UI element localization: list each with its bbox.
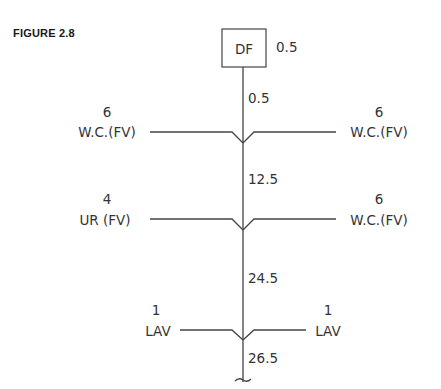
branch-1-right-count: 6 xyxy=(375,104,384,120)
branch-3-left-line xyxy=(180,330,243,340)
branch-2-left-name: UR (FV) xyxy=(79,212,130,228)
branch-3-left-count: 1 xyxy=(152,302,161,318)
branch-2-right-line xyxy=(243,219,336,230)
branch-3-right-line xyxy=(243,330,306,340)
branch-1-left-count: 6 xyxy=(103,104,112,120)
segment-label-3: 24.5 xyxy=(248,270,278,286)
df-fixture-label: DF xyxy=(235,41,253,57)
segment-label-1: 0.5 xyxy=(248,90,269,106)
drainage-riser-diagram: DF 0.5 0.5 12.5 24.5 26.5 6 W.C.(FV) 6 W… xyxy=(0,0,441,389)
branch-2-right-count: 6 xyxy=(375,191,384,207)
branch-2-right-name: W.C.(FV) xyxy=(350,212,407,228)
branch-2-left-count: 4 xyxy=(103,191,112,207)
branch-2-left-line xyxy=(150,219,243,230)
branch-1-left-line xyxy=(150,132,243,143)
branch-1-right-name: W.C.(FV) xyxy=(350,124,407,140)
segment-label-2: 12.5 xyxy=(248,171,278,187)
branch-3-right-count: 1 xyxy=(324,302,333,318)
branch-3-right-name: LAV xyxy=(315,323,341,339)
branch-1-left-name: W.C.(FV) xyxy=(78,124,135,140)
df-fixture-value: 0.5 xyxy=(276,39,297,55)
segment-label-4: 26.5 xyxy=(248,350,278,366)
branch-3-left-name: LAV xyxy=(145,323,171,339)
branch-1-right-line xyxy=(243,132,336,143)
